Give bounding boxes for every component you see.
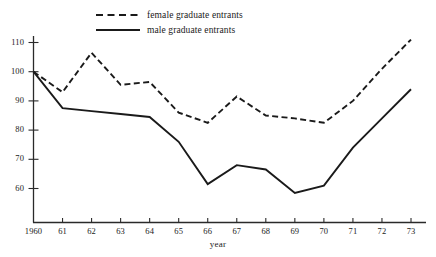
x-tick-label: 68 bbox=[251, 227, 281, 236]
x-tick-label: 73 bbox=[396, 227, 426, 236]
x-tick-label: 1960 bbox=[19, 227, 49, 236]
axis-lines bbox=[33, 36, 426, 223]
x-tick-label: 63 bbox=[106, 227, 136, 236]
y-tick-label: 110 bbox=[2, 38, 24, 47]
x-tick-label: 66 bbox=[193, 227, 223, 236]
legend-item-female: female graduate entrants bbox=[96, 9, 326, 21]
x-axis-title: year bbox=[0, 239, 436, 249]
y-tick-label: 70 bbox=[2, 154, 24, 163]
x-tick-label: 72 bbox=[367, 227, 397, 236]
dashed-line-icon bbox=[96, 10, 140, 20]
series-line-male bbox=[34, 72, 412, 193]
x-tick-label: 61 bbox=[48, 227, 78, 236]
x-tick-label: 62 bbox=[77, 227, 107, 236]
legend-item-male: male graduate entrants bbox=[96, 24, 326, 36]
x-tick-label: 65 bbox=[164, 227, 194, 236]
x-tick-label: 69 bbox=[280, 227, 310, 236]
data-series-group bbox=[34, 40, 412, 193]
y-tick-label: 80 bbox=[2, 125, 24, 134]
solid-line-icon bbox=[96, 25, 140, 35]
chart-container: female graduate entrants male graduate e… bbox=[0, 0, 436, 257]
x-tick-label: 70 bbox=[309, 227, 339, 236]
x-axis-ticks bbox=[63, 218, 411, 223]
chart-legend: female graduate entrants male graduate e… bbox=[96, 9, 326, 39]
legend-label-male: male graduate entrants bbox=[140, 25, 235, 35]
x-tick-label: 71 bbox=[338, 227, 368, 236]
x-tick-label: 67 bbox=[222, 227, 252, 236]
x-tick-label: 64 bbox=[135, 227, 165, 236]
y-tick-label: 60 bbox=[2, 184, 24, 193]
y-tick-label: 100 bbox=[2, 67, 24, 76]
legend-label-female: female graduate entrants bbox=[140, 10, 243, 20]
y-tick-label: 90 bbox=[2, 96, 24, 105]
